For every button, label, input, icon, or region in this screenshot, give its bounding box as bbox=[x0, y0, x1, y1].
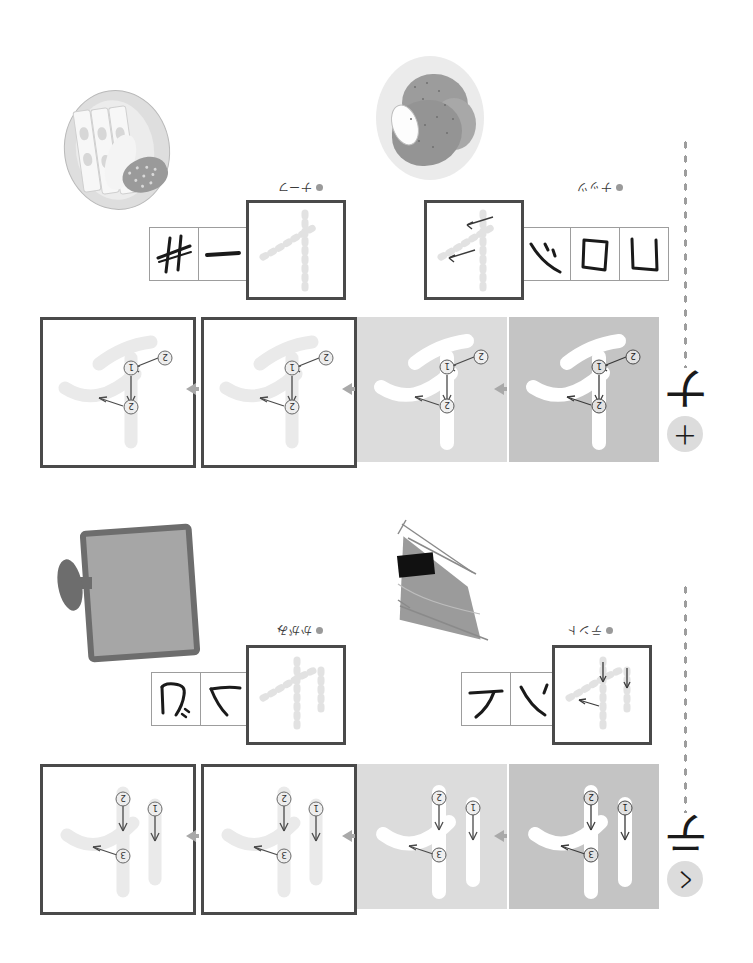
svg-text:2: 2 bbox=[128, 401, 134, 411]
stroke-panel-te-1: 2 1 3 bbox=[509, 764, 659, 909]
svg-text:2: 2 bbox=[436, 792, 442, 802]
ghost-guide-box-te-right bbox=[552, 645, 652, 745]
component-cell bbox=[619, 227, 669, 281]
svg-text:2: 2 bbox=[444, 400, 450, 410]
svg-text:3: 3 bbox=[120, 850, 126, 860]
component-cell bbox=[570, 227, 620, 281]
svg-text:1: 1 bbox=[622, 802, 628, 812]
component-cell bbox=[151, 672, 201, 726]
label-bullet-icon bbox=[316, 185, 323, 192]
headword-na: ナ bbox=[664, 365, 708, 409]
sequence-arrow-icon bbox=[182, 379, 204, 401]
stroke-panel-te-4: 2 1 3 bbox=[40, 764, 196, 915]
word-label-te-left: かがみ bbox=[276, 623, 323, 639]
illustration-plate-with-sliced-food bbox=[58, 82, 178, 217]
svg-text:2: 2 bbox=[162, 352, 168, 362]
worksheet-page: ナーフ ナッツ bbox=[0, 0, 753, 963]
word-label-na-left: ナーフ bbox=[277, 180, 323, 196]
headword-badge-te: く bbox=[667, 861, 703, 897]
svg-text:2: 2 bbox=[323, 352, 329, 362]
stroke-panel-na-4: 1 2 2 bbox=[40, 317, 196, 468]
svg-text:2: 2 bbox=[289, 401, 295, 411]
svg-text:1: 1 bbox=[596, 361, 602, 371]
illustration-sail-kite bbox=[392, 510, 537, 655]
label-bullet-icon bbox=[316, 628, 323, 635]
component-cell bbox=[200, 672, 250, 726]
component-row-na-right bbox=[522, 227, 669, 281]
dotted-rule bbox=[683, 138, 688, 368]
sequence-arrow-icon bbox=[338, 379, 360, 401]
component-cell bbox=[461, 672, 511, 726]
svg-text:2: 2 bbox=[478, 351, 484, 361]
section-te: かがみ テント bbox=[0, 483, 753, 963]
component-cell bbox=[521, 227, 571, 281]
sequence-arrow-icon bbox=[338, 826, 360, 848]
word-label-na-right: ナッツ bbox=[576, 180, 623, 196]
word-label-te-right: テント bbox=[566, 623, 613, 639]
label-bullet-icon bbox=[606, 628, 613, 635]
stroke-panel-na-2: 1 2 2 bbox=[357, 317, 507, 462]
headword-te: テ bbox=[664, 810, 708, 854]
dotted-rule bbox=[683, 583, 688, 813]
svg-text:1: 1 bbox=[289, 362, 295, 372]
component-row-te-left bbox=[152, 672, 250, 726]
svg-text:2: 2 bbox=[596, 400, 602, 410]
svg-text:3: 3 bbox=[588, 849, 594, 859]
svg-text:1: 1 bbox=[444, 361, 450, 371]
headword-badge-text: 十 bbox=[675, 424, 695, 444]
word-label-text: かがみ bbox=[276, 623, 312, 639]
component-cell bbox=[198, 227, 248, 281]
svg-text:2: 2 bbox=[120, 793, 126, 803]
illustration-bread-on-oval-plate bbox=[366, 52, 496, 182]
sequence-arrow-icon bbox=[490, 379, 512, 401]
illustration-hand-mirror bbox=[56, 515, 201, 650]
sequence-arrow-icon bbox=[182, 826, 204, 848]
svg-text:1: 1 bbox=[313, 803, 319, 813]
headword-badge-text: く bbox=[675, 869, 695, 889]
component-row-te-right bbox=[462, 672, 560, 726]
headword-badge-na: 十 bbox=[667, 416, 703, 452]
sequence-arrow-icon bbox=[490, 826, 512, 848]
stroke-panel-na-3: 1 2 2 bbox=[201, 317, 357, 468]
section-na: ナーフ ナッツ bbox=[0, 0, 753, 480]
stroke-panel-na-1: 1 2 2 bbox=[509, 317, 659, 462]
svg-text:1: 1 bbox=[470, 802, 476, 812]
stroke-panel-te-3: 2 1 3 bbox=[201, 764, 357, 915]
component-cell bbox=[149, 227, 199, 281]
word-label-text: ナッツ bbox=[576, 180, 612, 196]
svg-text:3: 3 bbox=[436, 849, 442, 859]
word-label-text: ナーフ bbox=[277, 180, 312, 196]
word-label-text: テント bbox=[566, 623, 602, 639]
ghost-guide-box-na-left bbox=[246, 200, 346, 300]
ghost-guide-box-na-right bbox=[424, 200, 524, 300]
svg-text:2: 2 bbox=[281, 793, 287, 803]
svg-text:2: 2 bbox=[588, 792, 594, 802]
svg-text:1: 1 bbox=[152, 803, 158, 813]
label-bullet-icon bbox=[616, 185, 623, 192]
ghost-guide-box-te-left bbox=[246, 645, 346, 745]
svg-text:3: 3 bbox=[281, 850, 287, 860]
svg-text:2: 2 bbox=[630, 351, 636, 361]
stroke-panel-te-2: 2 1 3 bbox=[357, 764, 507, 909]
svg-text:1: 1 bbox=[128, 362, 134, 372]
component-row-na-left bbox=[150, 227, 248, 281]
